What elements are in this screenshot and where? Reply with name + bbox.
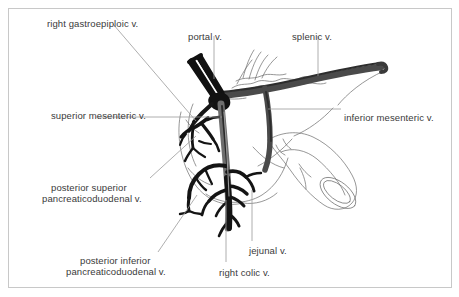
posterior-superior-pancreaticoduodenal-vein: [180, 117, 219, 161]
leader-posterior-inferior-pd: [158, 195, 197, 252]
label-posterior-superior-pancreaticoduodenal-vein-line2: pancreaticoduodenal v.: [42, 193, 142, 205]
portal-venous-system: [180, 55, 386, 236]
label-right-gastroepiploic-vein: right gastroepiploic v.: [47, 18, 138, 30]
label-inferior-mesenteric-vein: inferior mesenteric v.: [344, 112, 434, 124]
label-superior-mesenteric-vein: superior mesenteric v.: [51, 110, 146, 122]
label-right-colic-vein: right colic v.: [219, 267, 270, 279]
vascular-anatomy-illustration: [0, 0, 459, 297]
splenic-vein: [218, 67, 381, 96]
label-jejunal-vein: jejunal v.: [249, 245, 287, 257]
label-posterior-inferior-pancreaticoduodenal-vein-line2: pancreaticoduodenal v.: [66, 266, 166, 278]
anatomical-figure: right gastroepiploic v. portal v. spleni…: [0, 0, 459, 297]
label-splenic-vein: splenic v.: [292, 31, 332, 43]
label-posterior-superior-pancreaticoduodenal-vein-line1: posterior superior: [51, 182, 127, 194]
leader-lines: [96, 24, 341, 262]
posterior-inferior-pancreaticoduodenal-vein: [180, 165, 226, 214]
leader-right-gastroepiploic: [113, 24, 196, 121]
label-posterior-inferior-pancreaticoduodenal-vein-line1: posterior inferior: [80, 255, 150, 267]
label-portal-vein: portal v.: [188, 31, 222, 43]
jejunal-veins: [227, 171, 261, 206]
leader-posterior-superior-pd: [150, 136, 196, 178]
